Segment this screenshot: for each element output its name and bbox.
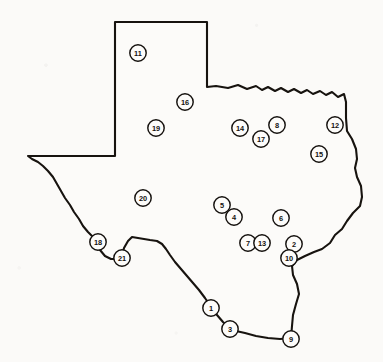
site-marker-label: 21 <box>118 254 126 263</box>
site-marker-label: 20 <box>139 194 147 203</box>
site-marker-label: 13 <box>258 239 266 248</box>
site-marker-8[interactable]: 8 <box>269 117 285 133</box>
site-marker-label: 9 <box>289 335 293 344</box>
site-marker-15[interactable]: 15 <box>311 146 327 162</box>
site-marker-label: 7 <box>246 239 250 248</box>
site-marker-label: 6 <box>279 214 283 223</box>
site-marker-label: 2 <box>292 240 296 249</box>
site-marker-17[interactable]: 17 <box>253 131 269 147</box>
site-marker-1[interactable]: 1 <box>203 300 219 316</box>
site-marker-10[interactable]: 10 <box>281 250 297 266</box>
site-marker-16[interactable]: 16 <box>177 94 193 110</box>
site-marker-5[interactable]: 5 <box>214 197 230 213</box>
site-marker-19[interactable]: 19 <box>148 120 164 136</box>
site-marker-label: 8 <box>275 121 279 130</box>
site-marker-label: 15 <box>315 150 323 159</box>
site-marker-label: 10 <box>285 254 293 263</box>
texas-map-figure: 123456789101112131415161718192021 <box>0 0 383 362</box>
site-marker-label: 19 <box>152 124 160 133</box>
site-marker-label: 1 <box>209 304 213 313</box>
texas-map-svg: 123456789101112131415161718192021 <box>0 0 383 362</box>
site-marker-20[interactable]: 20 <box>135 190 151 206</box>
site-marker-14[interactable]: 14 <box>232 120 248 136</box>
site-marker-label: 5 <box>220 201 224 210</box>
site-marker-12[interactable]: 12 <box>327 117 343 133</box>
site-marker-9[interactable]: 9 <box>283 331 299 347</box>
site-marker-13[interactable]: 13 <box>254 235 270 251</box>
site-marker-label: 17 <box>257 135 265 144</box>
site-marker-11[interactable]: 11 <box>130 45 146 61</box>
site-marker-3[interactable]: 3 <box>222 321 238 337</box>
site-marker-label: 11 <box>134 49 142 58</box>
site-marker-label: 14 <box>236 124 245 133</box>
site-marker-label: 12 <box>331 121 339 130</box>
site-marker-label: 18 <box>94 238 102 247</box>
site-marker-6[interactable]: 6 <box>273 210 289 226</box>
site-marker-21[interactable]: 21 <box>114 250 130 266</box>
texas-state-outline <box>28 22 362 339</box>
site-marker-18[interactable]: 18 <box>90 234 106 250</box>
site-marker-label: 3 <box>228 325 232 334</box>
site-marker-label: 16 <box>181 98 189 107</box>
